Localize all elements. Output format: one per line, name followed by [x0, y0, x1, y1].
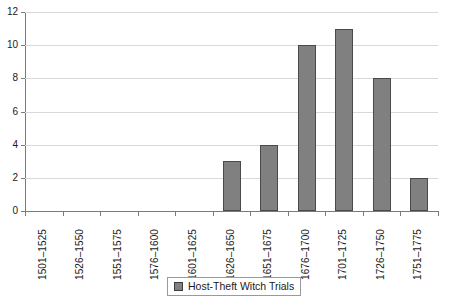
bar-chart: 024681012 1501–15251526–15501551–1575157… — [0, 0, 449, 304]
x-axis-label: 1651–1675 — [262, 218, 276, 280]
bar — [335, 29, 353, 211]
y-tick-label: 10 — [0, 40, 18, 50]
x-tick-mark — [138, 212, 139, 216]
legend-swatch-icon — [174, 282, 183, 291]
bar — [373, 78, 391, 211]
x-axis-label: 1526–1550 — [74, 218, 88, 280]
plot-area — [25, 12, 438, 211]
y-tick-label: 0 — [0, 206, 18, 216]
x-tick-mark — [400, 212, 401, 216]
x-axis-label: 1601–1625 — [187, 218, 201, 280]
x-axis-label: 1751–1775 — [412, 218, 426, 280]
x-tick-mark — [250, 212, 251, 216]
gridline — [25, 45, 438, 46]
x-axis-label: 1676–1700 — [300, 218, 314, 280]
legend-label: Host-Theft Witch Trials — [188, 281, 294, 292]
x-axis-label: 1726–1750 — [375, 218, 389, 280]
x-axis-label: 1501–1525 — [37, 218, 51, 280]
y-tick-label: 12 — [0, 7, 18, 17]
y-tick-label: 8 — [0, 73, 18, 83]
x-tick-mark — [363, 212, 364, 216]
y-tick-label: 4 — [0, 140, 18, 150]
x-axis-label: 1576–1600 — [149, 218, 163, 280]
x-axis-line — [25, 211, 439, 212]
x-tick-mark — [175, 212, 176, 216]
x-tick-mark — [25, 212, 26, 216]
x-tick-mark — [63, 212, 64, 216]
bar — [260, 145, 278, 211]
x-tick-mark — [213, 212, 214, 216]
bar — [410, 178, 428, 211]
x-tick-mark — [288, 212, 289, 216]
bar — [298, 45, 316, 211]
x-tick-mark — [100, 212, 101, 216]
chart-legend: Host-Theft Witch Trials — [167, 277, 301, 296]
x-axis-label: 1551–1575 — [112, 218, 126, 280]
x-tick-mark — [438, 212, 439, 216]
x-axis-label: 1626–1650 — [225, 218, 239, 280]
y-tick-label: 2 — [0, 173, 18, 183]
y-tick-label: 6 — [0, 107, 18, 117]
x-tick-mark — [325, 212, 326, 216]
x-axis-label: 1701–1725 — [337, 218, 351, 280]
gridline — [25, 12, 438, 13]
bar — [223, 161, 241, 211]
